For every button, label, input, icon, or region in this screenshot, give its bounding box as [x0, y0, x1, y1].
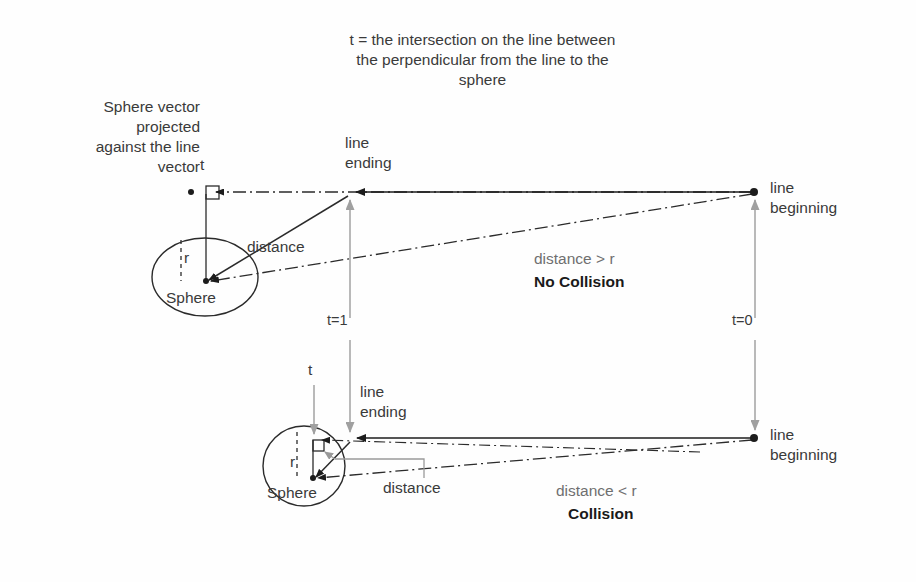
- lower-line-beginning-dot: [750, 434, 758, 442]
- upper-line-ending-label: line ending: [345, 133, 435, 173]
- lower-sphere-center-dot: [310, 475, 316, 481]
- lower-line-ending-label: line ending: [360, 382, 450, 422]
- upper-sphere-center-dot: [203, 278, 209, 284]
- t-equals-zero-label: t=0: [732, 310, 753, 330]
- intersection-note: t = the intersection on the line between…: [335, 30, 630, 90]
- lower-distance-label: distance: [383, 478, 441, 498]
- lower-distance-leader-arrow: [325, 452, 335, 459]
- upper-radius-label: r: [184, 248, 189, 268]
- lower-distance-leader: [335, 459, 424, 478]
- lower-sphere-label: Sphere: [267, 483, 317, 503]
- diagram-canvas: t = the intersection on the line between…: [0, 0, 916, 582]
- t-equals-one-label: t=1: [327, 310, 348, 330]
- lower-projection-dashdot: [322, 440, 700, 452]
- upper-t-dot: [188, 189, 194, 195]
- upper-condition-label: distance > r: [534, 249, 615, 269]
- lower-line-beginning-label: line beginning: [770, 425, 890, 465]
- lower-radius-label: r: [290, 452, 295, 472]
- upper-distance-label: distance: [247, 237, 305, 257]
- upper-t-label: t: [200, 155, 204, 175]
- lower-right-angle-marker: [313, 440, 324, 451]
- collision-label: Collision: [568, 504, 633, 524]
- no-collision-label: No Collision: [534, 272, 624, 292]
- upper-line-beginning-label: line beginning: [770, 178, 890, 218]
- lower-condition-label: distance < r: [556, 481, 637, 501]
- lower-t-label: t: [308, 360, 312, 380]
- upper-sphere-label: Sphere: [166, 288, 216, 308]
- upper-line-beginning-dot: [750, 188, 758, 196]
- sphere-vector-note: Sphere vector projected against the line…: [45, 97, 200, 177]
